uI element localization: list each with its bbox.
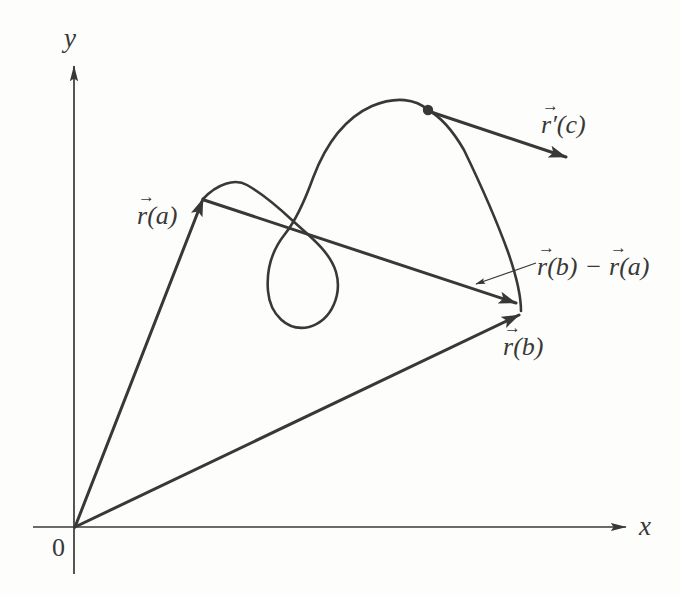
point-c-dot <box>423 105 433 115</box>
vector-symbol: →r <box>537 253 547 280</box>
over-arrow-icon: → <box>542 97 559 115</box>
difference-label-pointer <box>476 263 536 284</box>
vector-symbol: →r <box>541 111 551 138</box>
vector-symbol: →r <box>503 333 513 360</box>
vector-r-b <box>75 315 519 527</box>
over-arrow-icon: → <box>504 319 521 337</box>
vector-r-b-minus-r-a <box>204 200 516 303</box>
vector-symbol: →r <box>609 253 619 280</box>
over-arrow-icon: → <box>538 239 555 257</box>
label-r-b: →r(b) <box>503 333 543 360</box>
over-arrow-icon: → <box>138 188 155 206</box>
label-r-prime-c: →r′(c) <box>541 111 586 138</box>
vector-r-a <box>75 199 203 527</box>
label-difference: →r(b)−→r(a) <box>537 253 649 280</box>
minus-operator: − <box>577 252 609 281</box>
over-arrow-icon: → <box>610 239 627 257</box>
diagram-canvas <box>0 0 680 597</box>
origin-label: 0 <box>52 534 65 561</box>
label-r-a: →r(a) <box>137 202 177 229</box>
figure-container: y x 0 →r(a) →r(b) →r(b)−→r(a) →r′(c) <box>0 0 680 597</box>
y-axis-label: y <box>64 24 76 52</box>
vector-symbol: →r <box>137 202 147 229</box>
x-axis-label: x <box>639 512 651 540</box>
